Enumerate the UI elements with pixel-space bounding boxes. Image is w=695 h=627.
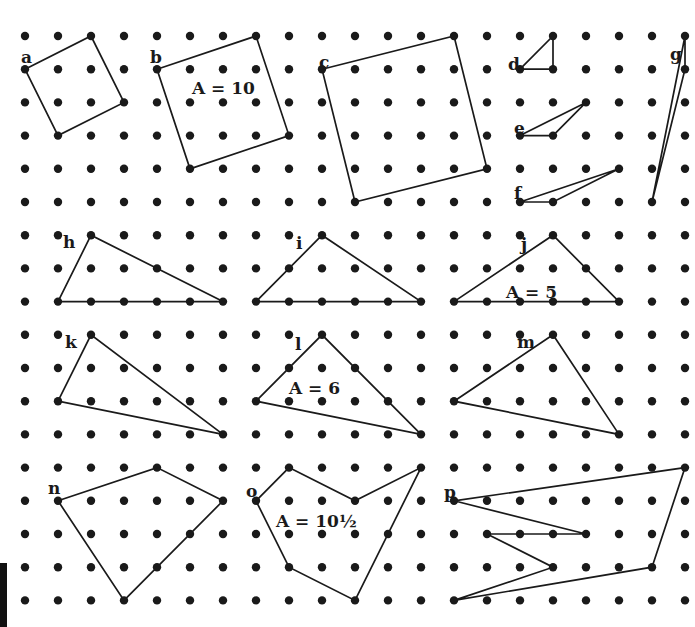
grid-dot — [615, 397, 623, 405]
grid-dot — [186, 596, 194, 604]
grid-dot — [615, 331, 623, 339]
grid-dot — [252, 596, 260, 604]
grid-dot — [120, 131, 128, 139]
grid-dot — [351, 231, 359, 239]
grid-dot — [384, 131, 392, 139]
grid-dot — [450, 165, 458, 173]
grid-dot — [483, 264, 491, 272]
grid-dot — [483, 563, 491, 571]
grid-dot — [219, 165, 227, 173]
grid-dot — [384, 165, 392, 173]
polygon-label-m: m — [517, 332, 535, 352]
grid-dot — [252, 463, 260, 471]
grid-dot — [54, 331, 62, 339]
grid-dot — [21, 430, 29, 438]
grid-dot — [219, 596, 227, 604]
grid-dot — [54, 231, 62, 239]
grid-dot — [318, 364, 326, 372]
grid-dot — [615, 131, 623, 139]
grid-dot — [120, 231, 128, 239]
grid-dot — [483, 32, 491, 40]
grid-dot — [648, 98, 656, 106]
polygon-d — [520, 36, 553, 69]
polygon-c — [322, 36, 487, 202]
grid-dot — [483, 497, 491, 505]
grid-dot — [648, 364, 656, 372]
grid-dot — [648, 331, 656, 339]
polygon-label-d: d — [508, 54, 520, 74]
grid-dot — [120, 497, 128, 505]
grid-dot — [87, 98, 95, 106]
grid-dot — [450, 65, 458, 73]
grid-dot — [186, 397, 194, 405]
grid-dot — [351, 131, 359, 139]
grid-dot — [21, 231, 29, 239]
grid-dot — [681, 430, 689, 438]
grid-dot — [681, 596, 689, 604]
grid-dot — [615, 497, 623, 505]
grid-dot — [417, 32, 425, 40]
grid-dot — [54, 463, 62, 471]
grid-dot — [549, 430, 557, 438]
grid-dot — [450, 530, 458, 538]
grid-dot — [582, 397, 590, 405]
grid-dot — [120, 364, 128, 372]
grid-dot — [285, 65, 293, 73]
polygon-e — [520, 102, 586, 135]
grid-dot — [417, 497, 425, 505]
area-annotation-l: A = 6 — [288, 378, 340, 398]
grid-dot — [384, 264, 392, 272]
grid-dot — [450, 98, 458, 106]
polygon-label-n: n — [48, 478, 60, 498]
polygon-label-g: g — [670, 44, 682, 64]
grid-dot — [615, 596, 623, 604]
grid-dot — [483, 331, 491, 339]
grid-dot — [648, 264, 656, 272]
grid-dot — [219, 131, 227, 139]
grid-dot — [153, 397, 161, 405]
grid-dot — [384, 364, 392, 372]
grid-dot — [21, 32, 29, 40]
grid-dot — [549, 463, 557, 471]
scan-edge-bar — [0, 563, 7, 627]
grid-dot — [351, 165, 359, 173]
grid-dot — [615, 364, 623, 372]
grid-dot — [417, 563, 425, 571]
grid-dot — [417, 198, 425, 206]
grid-dot — [615, 264, 623, 272]
grid-dot — [351, 430, 359, 438]
grid-dot — [483, 98, 491, 106]
area-annotation-j: A = 5 — [505, 282, 557, 302]
grid-dot — [648, 430, 656, 438]
grid-dot — [483, 364, 491, 372]
grid-dot — [351, 331, 359, 339]
grid-dot — [318, 98, 326, 106]
grid-dot — [318, 32, 326, 40]
grid-dot — [516, 98, 524, 106]
grid-dot — [615, 32, 623, 40]
grid-dot — [252, 331, 260, 339]
grid-dot — [153, 198, 161, 206]
grid-dot — [417, 98, 425, 106]
polygon-o — [256, 468, 421, 601]
geoboard-diagram: abA = 10cdefghijA = 5klA = 6mnoA = 10½p — [0, 0, 695, 627]
grid-dot — [582, 430, 590, 438]
grid-dot — [483, 397, 491, 405]
grid-dot — [483, 430, 491, 438]
grid-dot — [87, 264, 95, 272]
grid-dot — [153, 364, 161, 372]
grid-dot — [318, 397, 326, 405]
grid-dot — [483, 231, 491, 239]
grid-dot — [252, 165, 260, 173]
grid-dot — [54, 364, 62, 372]
grid-dot — [252, 530, 260, 538]
grid-dot — [648, 165, 656, 173]
grid-dot — [54, 65, 62, 73]
grid-dot — [351, 397, 359, 405]
grid-dot — [153, 98, 161, 106]
grid-dot — [285, 596, 293, 604]
grid-dot — [351, 32, 359, 40]
grid-dot — [549, 397, 557, 405]
grid-dot — [582, 463, 590, 471]
grid-dot — [648, 397, 656, 405]
